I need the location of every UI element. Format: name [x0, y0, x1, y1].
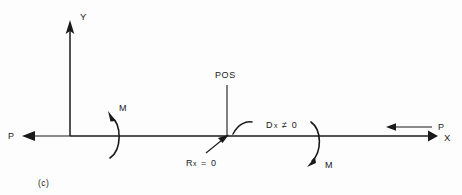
right-load-arrowhead-icon — [386, 123, 396, 131]
reaction-zero-label-group: R x = 0 — [186, 158, 217, 168]
y-axis-group — [66, 20, 75, 136]
displacement-label-group: D x ≠ 0 — [266, 120, 298, 130]
left-moment-arc — [110, 117, 119, 158]
x-axis-group — [70, 131, 438, 142]
reaction-zero-value: = 0 — [201, 158, 217, 168]
right-load-arrow-group — [386, 123, 432, 131]
displacement-value: ≠ 0 — [282, 120, 298, 130]
reaction-callout-shaft — [206, 140, 222, 153]
right-moment-arc — [311, 122, 319, 161]
left-moment-arrowhead-icon — [108, 111, 116, 122]
left-load-label: P — [8, 131, 15, 141]
left-load-arrow-group — [22, 131, 70, 141]
figure-caption: (c) — [38, 178, 49, 188]
right-moment-group — [307, 122, 319, 167]
right-load-label: P — [438, 122, 445, 132]
displacement-subscript: x — [274, 122, 278, 129]
left-load-arrowhead-icon — [22, 131, 35, 141]
diagram-canvas: Y X P P M M POS R x = 0 D x ≠ 0 (c) — [0, 0, 462, 195]
reaction-callout-group — [206, 135, 229, 154]
right-moment-arrowhead-icon — [307, 157, 316, 167]
x-axis-label: X — [444, 132, 451, 143]
right-moment-label: M — [325, 160, 333, 170]
reaction-zero-subscript: x — [193, 160, 197, 167]
left-moment-group — [108, 111, 119, 158]
displacement-base: D — [266, 120, 274, 130]
left-moment-label: M — [119, 103, 127, 113]
free-body-diagram-figure: Y X P P M M POS R x = 0 D x ≠ 0 (c) — [0, 0, 462, 195]
x-axis-arrowhead-icon — [428, 131, 438, 142]
pos-label: POS — [215, 70, 236, 80]
displacement-hook-arc — [233, 122, 252, 134]
y-axis-label: Y — [80, 11, 87, 22]
